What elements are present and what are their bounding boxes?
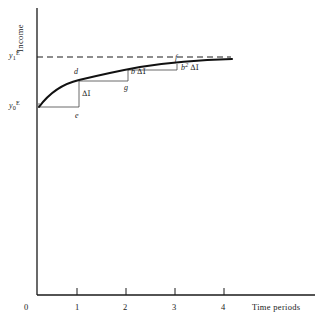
point-label-g: g (124, 84, 128, 92)
x-tick-label-4: 4 (221, 303, 225, 312)
x-tick-label-2: 2 (123, 303, 127, 312)
annotation-b2-delta-i: b2 ΔI (181, 62, 199, 72)
y-label-lower-sup: E (16, 99, 20, 106)
annotation-delta-i-text: ΔI (82, 89, 91, 98)
step-increment-1-lines (39, 81, 79, 107)
point-label-e: e (75, 112, 79, 120)
point-label-f: f (175, 54, 177, 62)
annotation-b-delta-i: b ΔI (131, 68, 146, 76)
annotation-delta-i: ΔI (82, 90, 91, 98)
y-label-upper-sup: E (16, 49, 20, 56)
y-axis-title: Income (16, 24, 25, 52)
income-time-plot (0, 0, 320, 324)
annotation-b2-delta-i-text: ΔI (190, 63, 199, 72)
x-tick-label-origin: 0 (24, 303, 28, 312)
annotation-b-delta-i-text: ΔI (137, 67, 146, 76)
y-label-equilibrium-lower: y0E (9, 100, 20, 111)
figure-container: Income y1E y0E d e g f ΔI b ΔI b2 ΔI 0 1… (0, 0, 320, 324)
x-axis-title: Time periods (252, 303, 300, 312)
y-label-equilibrium-upper: y1E (9, 50, 20, 61)
x-tick-label-3: 3 (172, 303, 176, 312)
point-label-d: d (74, 68, 78, 76)
x-axis-ticks (77, 288, 224, 295)
x-tick-label-1: 1 (75, 303, 79, 312)
